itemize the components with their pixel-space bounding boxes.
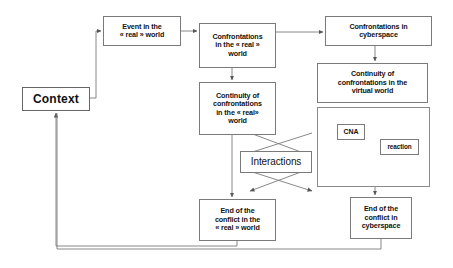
node-confrontations-real-world[interactable]: Confrontations in the « real » world <box>199 23 276 68</box>
edge-context-to-event <box>90 31 101 98</box>
node-end-conflict-cyberspace-label: End of the conflict in cyberspace <box>360 205 403 230</box>
node-continuity-confrontations-virtual-world-label: Continuity of confrontations in the virt… <box>336 70 409 95</box>
node-end-conflict-cyberspace[interactable]: End of the conflict in cyberspace <box>350 197 412 239</box>
node-context[interactable]: Context <box>22 87 90 111</box>
node-confrontations-cyberspace-label: Confrontations in cyberspace <box>347 23 409 40</box>
diagram-canvas: Context Event in the « real » world Conf… <box>0 0 453 268</box>
node-cna[interactable]: CNA <box>337 124 365 140</box>
node-confrontations-cyberspace[interactable]: Confrontations in cyberspace <box>325 16 432 46</box>
node-context-label: Context <box>31 92 81 106</box>
node-event-real-world[interactable]: Event in the « real » world <box>103 16 181 46</box>
node-interactions-label: Interactions <box>249 156 304 168</box>
node-end-conflict-real-world[interactable]: End of the conflict in the « real » worl… <box>199 199 276 241</box>
node-cna-label: CNA <box>342 128 361 136</box>
node-continuity-confrontations-real-world-label: Continuity of confrontations in the « re… <box>211 92 264 126</box>
node-interactions[interactable]: Interactions <box>240 151 312 173</box>
node-reaction[interactable]: reaction <box>380 139 419 155</box>
node-continuity-confrontations-virtual-world[interactable]: Continuity of confrontations in the virt… <box>317 63 428 103</box>
node-confrontations-real-world-label: Confrontations in the « real » world <box>210 33 264 58</box>
node-event-real-world-label: Event in the « real » world <box>118 23 167 40</box>
node-reaction-label: reaction <box>385 143 413 151</box>
node-continuity-confrontations-real-world[interactable]: Continuity of confrontations in the « re… <box>199 82 276 135</box>
node-end-conflict-real-world-label: End of the conflict in the « real » worl… <box>213 207 262 232</box>
